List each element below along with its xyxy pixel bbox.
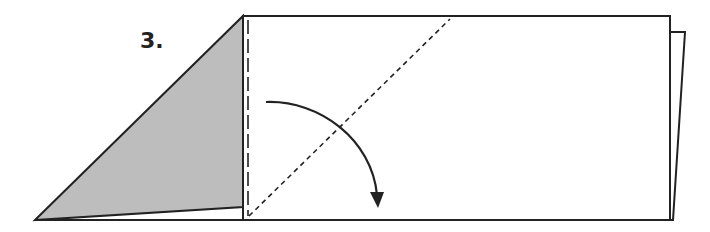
paper-rectangle: [243, 16, 670, 220]
step-number: 3.: [140, 28, 164, 53]
origami-diagram: [0, 0, 710, 232]
folded-triangle-flap: [35, 16, 243, 220]
back-layer-flap: [670, 32, 685, 220]
